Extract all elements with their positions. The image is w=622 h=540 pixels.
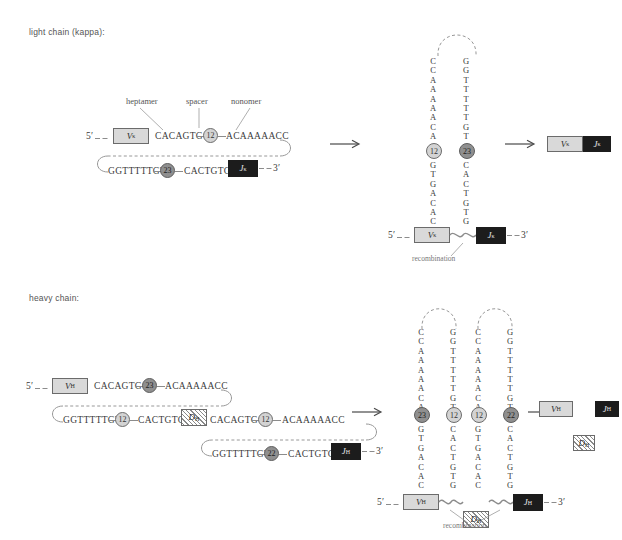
base: C: [418, 481, 424, 490]
light-hairpin-right-upper-column: G G T T T T T G T: [463, 57, 469, 142]
heavy-hairpin-col2-spacer-circle: 12: [446, 407, 462, 423]
heavy-hairpin-col1-lower: G T G A C A C: [418, 425, 424, 491]
light-hairpin-left-spacer-value: 12: [430, 147, 438, 156]
base: A: [430, 132, 436, 141]
light-hairpin-left-lower-column: G T G A C A C: [430, 161, 436, 227]
light-arrow-1: [330, 138, 368, 150]
heavy-product-five-dashes: [386, 503, 404, 507]
heavy-d-segment-text: D: [189, 412, 196, 422]
heavy-product-d-subscript: H: [477, 518, 481, 524]
heavy-row3-spacer-circle: 22: [264, 446, 279, 461]
heavy-final-v-box: VH: [539, 401, 573, 417]
heavy-row3-spacer-value: 22: [268, 449, 276, 458]
heavy-product-five-prime: 5′: [377, 497, 384, 507]
heavy-hairpin-col4-upper: G G T T T T T G T: [507, 328, 513, 413]
base: T: [463, 132, 468, 141]
light-bottom-spacer-circle: 23: [160, 163, 175, 178]
heavy-hairpin-col4-spacer-circle: 22: [503, 407, 519, 423]
light-final-v-box: Vκ: [547, 136, 583, 152]
heavy-hairpin-col3-spacer-value: 12: [475, 411, 483, 420]
light-product-five-prime: 5′: [388, 230, 395, 240]
heavy-row2-connector-b: [130, 419, 138, 423]
heavy-product-j-box: JH: [513, 494, 543, 511]
heavy-hairpin-col3-lower: G T G A C A C: [475, 425, 481, 491]
callout-heptamer: heptamer: [126, 96, 158, 106]
light-j-segment-subscript: κ: [243, 166, 246, 172]
heavy-j-segment-subscript: H: [346, 449, 350, 455]
heavy-product-squiggle-left: [439, 496, 463, 510]
heavy-hairpin-col4-lower: C A C T G T G: [507, 425, 513, 491]
heavy-hairpin-col3-upper: C C A A A A A C A: [475, 328, 481, 413]
light-final-j-box: Jκ: [583, 136, 611, 152]
light-arrow-2: [505, 138, 543, 150]
light-final-j-subscript: κ: [597, 141, 600, 147]
light-product-j-subscript: κ: [491, 233, 494, 239]
heavy-product-three-prime: 3′: [558, 497, 565, 507]
heavy-hairpin-col2-lower: C A C T G T G: [450, 425, 456, 491]
heavy-product-v-subscript: H: [422, 499, 426, 505]
light-bottom-spacer-value: 23: [164, 166, 172, 175]
base: G: [463, 217, 469, 226]
light-product-three-prime: 3′: [521, 230, 528, 240]
heavy-hairpin-col2-upper: G G T T T T T G T: [450, 328, 456, 413]
base: G: [450, 481, 456, 490]
light-bottom-connector-right: [175, 170, 183, 174]
light-hairpin-left-spacer-circle: 12: [426, 143, 442, 159]
light-product-junction-squiggle: [450, 229, 476, 243]
heavy-d-segment-label: DH: [189, 413, 200, 422]
light-product-j-box: Jκ: [476, 227, 506, 244]
heavy-row2-spacer-left-circle: 12: [115, 412, 130, 427]
heavy-final-d-box: DH: [573, 435, 595, 451]
heavy-hairpin-col4-spacer-value: 22: [507, 411, 515, 420]
heavy-final-j-box: JH: [595, 401, 619, 417]
callout-nonomer: nonomer: [231, 96, 261, 106]
light-final-v-subscript: κ: [566, 141, 569, 147]
light-hairpin-left-upper-column: C C A A A A A C A: [430, 57, 436, 142]
heavy-row3-connector-right: [279, 453, 287, 457]
light-product-v-box: Vκ: [414, 227, 450, 243]
base: G: [507, 481, 513, 490]
callout-spacer: spacer: [186, 96, 208, 106]
heavy-row2-spacer-left-value: 12: [119, 415, 127, 424]
light-j-segment-box: Jκ: [228, 160, 258, 177]
heavy-row3-heptamer: CACTGTG: [288, 449, 335, 459]
heavy-d-segment-subscript: H: [195, 416, 199, 422]
heavy-three-prime-label: 3′: [376, 446, 383, 456]
heavy-j-segment-box: JH: [331, 443, 361, 460]
light-product-five-dashes: [397, 236, 415, 240]
base: C: [475, 481, 481, 490]
heavy-final-j-subscript: H: [607, 406, 611, 412]
light-three-prime-label: 3′: [273, 163, 280, 173]
light-product-v-subscript: κ: [433, 232, 436, 238]
base: C: [430, 217, 436, 226]
heavy-hairpin-col1-upper: C C A A A A A C A: [418, 328, 424, 413]
heavy-product-squiggle-right: [489, 496, 513, 510]
heavy-final-d-label: D: [579, 438, 586, 448]
heavy-chain-section-title: heavy chain:: [29, 293, 79, 303]
heavy-product-j-subscript: H: [528, 500, 532, 506]
light-chain-section-title: light chain (kappa):: [29, 27, 105, 37]
heavy-product-v-box: VH: [403, 494, 439, 510]
light-recombination-caption: recombination: [412, 254, 455, 263]
heavy-final-d-subscript: H: [585, 442, 589, 448]
light-hairpin-right-spacer-value: 23: [463, 147, 471, 156]
heavy-final-v-subscript: H: [557, 406, 561, 412]
heavy-hairpin-col1-spacer-value: 23: [418, 411, 426, 420]
light-hairpin-right-spacer-circle: 23: [459, 143, 475, 159]
heavy-hairpin-loops: [408, 297, 558, 335]
light-bottom-heptamer: CACTGTG: [184, 166, 231, 176]
heavy-hairpin-col3-spacer-circle: 12: [471, 407, 487, 423]
light-hairpin-right-lower-column: C A C T G T G: [463, 161, 469, 227]
heavy-hairpin-col2-spacer-value: 12: [450, 411, 458, 420]
heavy-hairpin-col1-spacer-circle: 23: [414, 407, 430, 423]
heavy-product-d-label: D: [471, 514, 478, 524]
heavy-arrow-1: [352, 406, 390, 418]
